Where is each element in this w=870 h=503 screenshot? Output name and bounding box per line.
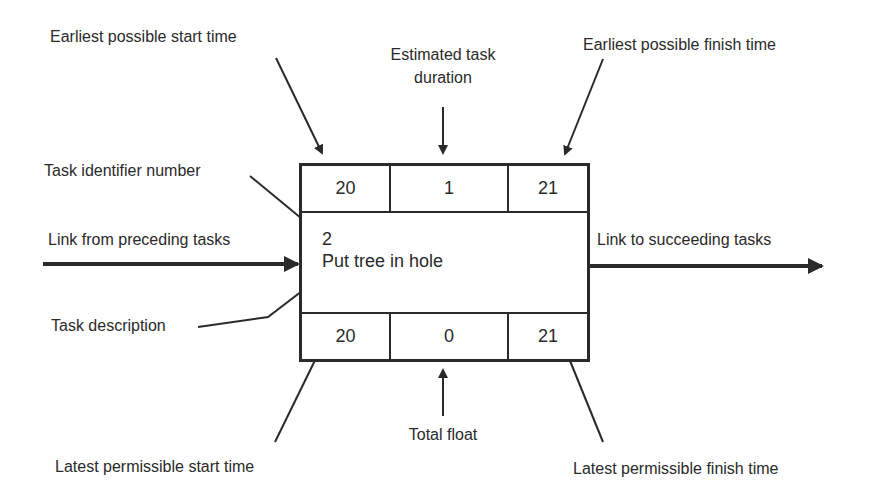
node-top-row: 20 1 21 — [302, 166, 587, 213]
label-earliest-finish: Earliest possible finish time — [583, 35, 776, 55]
node-body: 2 Put tree in hole — [322, 228, 443, 272]
earliest-start-value: 20 — [302, 166, 391, 211]
latest-finish-value: 21 — [509, 314, 587, 359]
label-description: Task description — [51, 316, 166, 336]
duration-value: 1 — [391, 166, 509, 211]
label-link-out: Link to succeeding tasks — [597, 230, 771, 250]
label-total-float: Total float — [370, 425, 516, 445]
label-task-id: Task identifier number — [44, 161, 201, 181]
earliest-finish-value: 21 — [509, 166, 587, 211]
label-link-in: Link from preceding tasks — [48, 230, 230, 250]
total-float-value: 0 — [391, 314, 509, 359]
arrow-earliest-finish — [565, 59, 603, 154]
arrow-earliest-start — [276, 58, 322, 153]
latest-start-value: 20 — [302, 314, 391, 359]
task-description-value: Put tree in hole — [322, 250, 443, 272]
label-latest-finish: Latest permissible finish time — [573, 459, 778, 479]
label-duration-line1: Estimated task — [370, 45, 516, 65]
node-bottom-row: 20 0 21 — [302, 312, 587, 359]
task-node: 20 1 21 2 Put tree in hole 20 0 21 — [299, 163, 590, 362]
task-id-value: 2 — [322, 228, 443, 250]
label-latest-start: Latest permissible start time — [55, 457, 254, 477]
label-duration-line2: duration — [370, 68, 516, 88]
label-earliest-start: Earliest possible start time — [50, 27, 237, 47]
